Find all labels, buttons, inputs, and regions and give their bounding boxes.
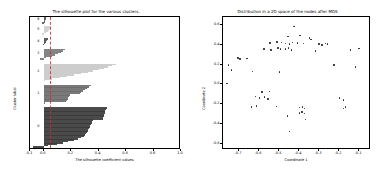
average-silhouette-line [50,17,51,148]
scatter-point [269,91,271,93]
cluster-label-text: 0 [37,124,39,128]
scatter-point [310,39,312,41]
x-tick-label: -0.5 [275,151,282,155]
scatter-point [343,99,345,101]
silhouette-row [40,58,44,60]
mds-xlabel: Coordinate 1 [222,158,370,162]
mds-axes [222,16,370,149]
silhouette-xlabel: The silhouette coefficient values [29,158,180,162]
x-tick [98,149,99,151]
silhouette-row [44,101,66,103]
y-tick-label: -0.2 [210,101,220,105]
x-tick [318,149,319,151]
x-tick-label: -0.7 [235,151,242,155]
y-tick [220,103,222,104]
cluster-label-text: 1 [37,91,39,95]
silhouette-cluster-band [30,85,179,104]
scatter-point [292,42,294,44]
y-tick [220,83,222,84]
scatter-point [264,96,266,98]
x-tick-label: -0.3 [315,151,322,155]
y-tick-label: 0.2 [210,62,220,66]
scatter-point [287,115,289,117]
silhouette-cluster-band [30,26,179,34]
x-tick-label: 0.6 [122,151,128,155]
scatter-point [228,64,230,66]
scatter-point [251,106,253,108]
x-tick [278,149,279,151]
x-tick [125,149,126,151]
silhouette-row [42,22,43,24]
scatter-point [288,47,290,49]
x-tick-label: 0.2 [67,151,73,155]
scatter-point [350,49,352,51]
x-tick-label: -0.4 [295,151,302,155]
y-tick-label: -0.6 [210,141,220,145]
x-tick [358,149,359,151]
scatter-point [280,48,282,50]
scatter-point [239,58,241,60]
scatter-point [325,43,327,45]
scatter-point [269,42,271,44]
scatter-point [321,44,323,46]
silhouette-ylabel: Cluster label [13,87,17,110]
matplotlib-figure: The silhouette plot for the various clus… [0,0,383,173]
scatter-point [279,71,281,73]
silhouette-row [44,57,47,59]
silhouette-row [44,42,45,44]
x-tick [70,149,71,151]
cluster-label-text: 2 [37,69,39,73]
x-tick [298,149,299,151]
x-tick-label: 0.4 [95,151,101,155]
x-tick [258,149,259,151]
silhouette-row [44,145,48,147]
x-tick-label: 0.8 [150,151,156,155]
scatter-point [297,42,299,44]
scatter-point [285,43,287,45]
x-tick [153,149,154,151]
silhouette-row [44,32,46,34]
silhouette-row [33,146,43,148]
scatter-point [303,43,305,45]
scatter-point [256,105,258,107]
scatter-point [318,43,320,45]
x-tick-label: -0.1 [26,151,33,155]
silhouette-cluster-band [30,64,179,81]
scatter-point [287,36,289,38]
y-tick-label: 0.0 [210,81,220,85]
scatter-point [355,66,357,68]
scatter-point [315,50,317,52]
x-tick [238,149,239,151]
scatter-point [358,48,360,50]
x-tick-label: 1.0 [177,151,183,155]
y-tick-label: -0.4 [210,121,220,125]
y-tick [220,123,222,124]
mds-plot-area [223,17,369,148]
silhouette-row [42,33,44,35]
silhouette-cluster-band [30,17,179,24]
x-tick-label: 0.0 [40,151,46,155]
cluster-label-text: 6 [37,17,39,21]
scatter-point [289,43,291,45]
scatter-point [231,69,233,71]
scatter-point [304,113,306,115]
x-tick-label: -0.2 [335,151,342,155]
silhouette-panel: The silhouette plot for the various clus… [0,0,192,173]
scatter-point [281,42,283,44]
scatter-point [246,58,248,60]
silhouette-plot-area [30,17,179,148]
scatter-point [276,106,278,108]
scatter-point [252,71,254,73]
scatter-point [301,111,303,113]
scatter-point [285,48,287,50]
y-tick-label: 0.4 [210,42,220,46]
scatter-point [305,119,307,121]
x-tick [29,149,30,151]
cluster-label-text: 5 [37,27,39,31]
scatter-point [277,47,279,49]
y-tick [220,143,222,144]
x-tick [338,149,339,151]
scatter-point [255,96,257,98]
scatter-point [267,98,269,100]
scatter-point [289,131,291,133]
